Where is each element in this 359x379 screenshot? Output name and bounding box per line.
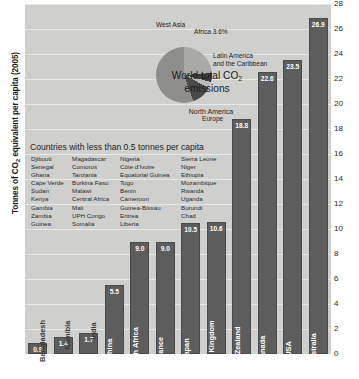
bar[interactable]: 1.7India bbox=[79, 333, 98, 354]
y-tick-label: 0 bbox=[334, 350, 356, 358]
y-tick-label: 12 bbox=[334, 200, 356, 208]
country-list-item: Magadascar bbox=[72, 155, 120, 163]
bar-category-label: China bbox=[105, 339, 114, 360]
bar-category-label: France bbox=[156, 337, 165, 361]
bar-category-label: Australia bbox=[309, 333, 318, 365]
country-list-item: Liberia bbox=[120, 220, 181, 228]
bar-category-label: United Kingdom bbox=[207, 320, 216, 377]
country-list-item: Malawi bbox=[72, 187, 120, 195]
y-tick-label: 18 bbox=[334, 125, 356, 133]
country-list-column: DjiboutiSenegalGhanaCape VerdeSudanKenya… bbox=[31, 155, 72, 228]
country-list-item: Somalia bbox=[72, 220, 120, 228]
country-list-item: Sierra Leone bbox=[181, 155, 237, 163]
pie-title-subscript: 2 bbox=[238, 75, 242, 82]
y-tick-label: 6 bbox=[334, 275, 356, 283]
country-list-item: Cape Verde bbox=[31, 179, 72, 187]
country-list-column: Sierra LeoneNigerEthiopiaMozambiqueRwand… bbox=[181, 155, 237, 228]
country-list-item: Central Africa bbox=[72, 195, 120, 203]
pie-label-latin-america-line1: Latin America bbox=[213, 52, 253, 59]
country-list-item: Ghana bbox=[31, 171, 72, 179]
y-tick-label: 8 bbox=[334, 250, 356, 258]
bar[interactable]: 9.0South Africa bbox=[130, 242, 149, 355]
pie-title: World total CO2 emissions bbox=[166, 70, 248, 95]
y-tick-label: 2 bbox=[334, 325, 356, 333]
bar[interactable]: 10.6United Kingdom bbox=[207, 222, 226, 355]
bar-value-label: 26.9 bbox=[312, 21, 325, 28]
bar-category-label: USA bbox=[284, 341, 293, 357]
country-list-item: Senegal bbox=[31, 163, 72, 171]
y-tick-label: 22 bbox=[334, 75, 356, 83]
bar[interactable]: 10.5Japan bbox=[181, 223, 200, 354]
pie-label-latin-america-line2: and the Caribbean bbox=[213, 60, 267, 67]
y-axis-title: Tonnes of CO2 equivalent per capita (200… bbox=[8, 8, 24, 258]
bar-category-label: Japan bbox=[182, 338, 191, 359]
country-list-item: Sudan bbox=[31, 187, 72, 195]
bar-value-label: 23.5 bbox=[286, 63, 299, 70]
pie-title-main: World total CO bbox=[172, 70, 239, 81]
chart-figure: Tonnes of CO2 equivalent per capita (200… bbox=[0, 0, 359, 379]
country-list-item: Chad bbox=[181, 212, 237, 220]
country-list-column: NigeriaCôte d'IvoireEquatorial GuineaTog… bbox=[120, 155, 181, 228]
bar[interactable]: 9.0France bbox=[156, 242, 175, 355]
country-list-item: Rwanda bbox=[181, 187, 237, 195]
country-list-item: Djibouti bbox=[31, 155, 72, 163]
y-axis-title-subscript: 2 bbox=[14, 159, 21, 162]
y-tick-label: 4 bbox=[334, 300, 356, 308]
bar[interactable]: 5.5China bbox=[105, 285, 124, 354]
bar-category-label: Bangladesh bbox=[38, 320, 47, 362]
country-list-item: Comoros bbox=[72, 163, 120, 171]
y-tick-label: 16 bbox=[334, 150, 356, 158]
bar[interactable]: 0.9Bangladesh bbox=[28, 343, 47, 354]
bar-category-label: Namibia bbox=[63, 320, 72, 349]
bar-category-label: New Zealand bbox=[233, 326, 242, 371]
country-list-column: MagadascarComorosTanzaniaBurkina FasoMal… bbox=[72, 155, 120, 228]
y-tick-label: 20 bbox=[334, 100, 356, 108]
y-tick-label: 26 bbox=[334, 25, 356, 33]
bar[interactable]: 26.9Australia bbox=[309, 18, 328, 354]
country-list-item: Côte d'Ivoire bbox=[120, 163, 181, 171]
country-list-item: Kenya bbox=[31, 195, 72, 203]
pie-label-latin-america: Latin America and the Caribbean bbox=[213, 52, 267, 69]
country-list-item: Mali bbox=[72, 204, 120, 212]
bar-category-label: India bbox=[89, 322, 98, 339]
country-list-item: Guinea bbox=[31, 220, 72, 228]
bar-value-label: 9.0 bbox=[161, 245, 170, 252]
pie-label-africa: Africa 3.6% bbox=[194, 28, 228, 36]
bar-value-label: 22.6 bbox=[261, 75, 274, 82]
country-list-item: Mozambique bbox=[181, 179, 237, 187]
plot-area: 0.9Bangladesh1.4Namibia1.7India5.5China9… bbox=[25, 4, 331, 354]
bar-value-label: 9.0 bbox=[135, 245, 144, 252]
pie-label-west-asia: West Asia bbox=[156, 21, 185, 29]
country-list-item: UPH Congo bbox=[72, 212, 120, 220]
pie-label-europe: Europe bbox=[202, 115, 223, 123]
y-tick-label: 24 bbox=[334, 50, 356, 58]
country-list-item: Nigeria bbox=[120, 155, 181, 163]
bar[interactable]: 23.5USA bbox=[283, 60, 302, 354]
country-list-item: Equatorial Guinea bbox=[120, 171, 181, 179]
country-list-item: Burundi bbox=[181, 204, 237, 212]
country-list-item: Uganda bbox=[181, 195, 237, 203]
pie-inset: World total CO2 emissions North America … bbox=[138, 23, 254, 135]
country-list-item: Niger bbox=[181, 163, 237, 171]
country-list: DjiboutiSenegalGhanaCape VerdeSudanKenya… bbox=[31, 155, 245, 228]
y-tick-label: 28 bbox=[334, 0, 356, 8]
country-list-item: Tanzania bbox=[72, 171, 120, 179]
country-list-item: Burkina Faso bbox=[72, 179, 120, 187]
country-list-item: Eritrea bbox=[120, 212, 181, 220]
country-list-item: Zambia bbox=[31, 212, 72, 220]
country-list-item: Togo bbox=[120, 179, 181, 187]
y-axis-title-tail: equivalent per capita (2005) bbox=[11, 52, 20, 159]
gridline bbox=[25, 4, 331, 5]
country-list-item: Guinea-Bissau bbox=[120, 204, 181, 212]
y-tick-label: 10 bbox=[334, 225, 356, 233]
country-list-item: Benin bbox=[120, 187, 181, 195]
country-list-item: Gambia bbox=[31, 204, 72, 212]
bar[interactable]: 1.4Namibia bbox=[54, 337, 73, 355]
y-tick-label: 14 bbox=[334, 175, 356, 183]
pie-title-tail: emissions bbox=[184, 83, 229, 94]
bar-value-label: 5.5 bbox=[110, 288, 119, 295]
bar-category-label: Canada bbox=[258, 336, 267, 363]
country-list-title: Countries with less than 0.5 tonnes per … bbox=[30, 142, 204, 152]
y-axis-title-main: Tonnes of CO bbox=[11, 162, 20, 214]
bar[interactable]: 22.6Canada bbox=[258, 72, 277, 355]
